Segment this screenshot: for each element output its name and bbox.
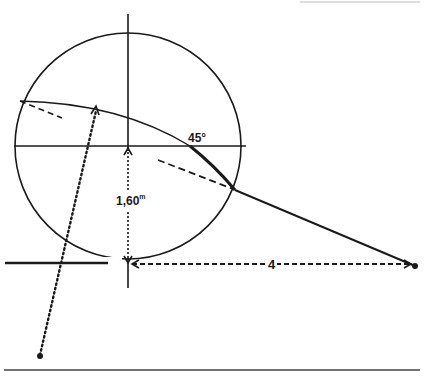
trajectory-thick-segment — [190, 146, 235, 190]
geometry-diagram — [0, 0, 425, 380]
dotted-line — [40, 111, 96, 355]
endpoint-bottom — [37, 353, 43, 359]
endpoint-right — [412, 263, 418, 269]
height-unit: m — [139, 193, 145, 200]
height-value: 1,60 — [116, 194, 139, 208]
height-label: 1,60m — [116, 193, 146, 208]
trajectory-line — [235, 190, 415, 266]
angle-label: 45° — [188, 131, 206, 145]
distance-label: 4 — [266, 257, 277, 272]
trajectory-arc — [20, 101, 190, 146]
